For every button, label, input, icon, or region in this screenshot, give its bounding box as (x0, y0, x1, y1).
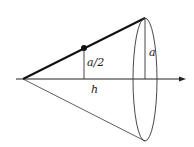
radius-label: a (149, 46, 156, 59)
cone-diagram: a/2 a h (0, 0, 194, 147)
height-label: h (91, 83, 98, 96)
lower-slant-line (23, 79, 145, 141)
half-radius-label: a/2 (87, 56, 104, 69)
axis-arrow-icon (179, 77, 186, 82)
midpoint-dot (81, 45, 87, 51)
